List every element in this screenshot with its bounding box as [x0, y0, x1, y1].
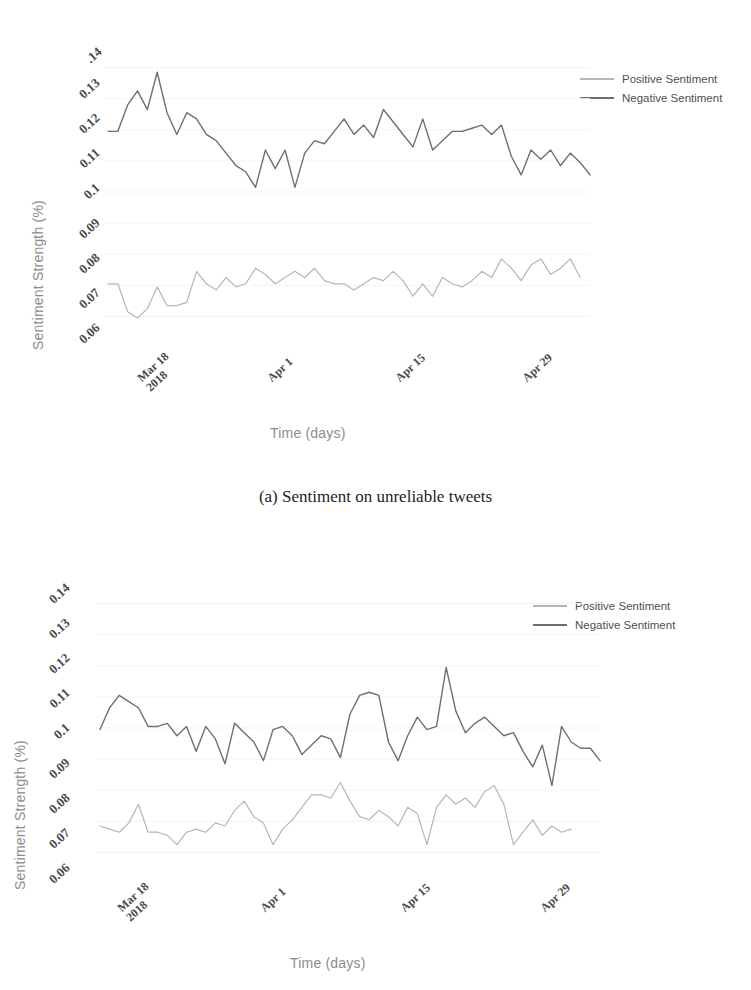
page-header-remnant — [52, 0, 242, 6]
series-line-positive-sentiment — [108, 259, 580, 318]
figure-page: Sentiment Strength (%) Time (days) .14 0… — [0, 0, 751, 990]
figure-b-plot-area — [0, 560, 751, 990]
series-line-positive-sentiment — [100, 782, 571, 844]
series-line-negative-sentiment — [100, 667, 600, 785]
figure-a-plot-area — [0, 20, 751, 490]
figure-a: Sentiment Strength (%) Time (days) .14 0… — [0, 20, 751, 490]
figure-a-caption: (a) Sentiment on unreliable tweets — [0, 487, 751, 507]
figure-b: Sentiment Strength (%) Time (days) 0.14 … — [0, 560, 751, 990]
